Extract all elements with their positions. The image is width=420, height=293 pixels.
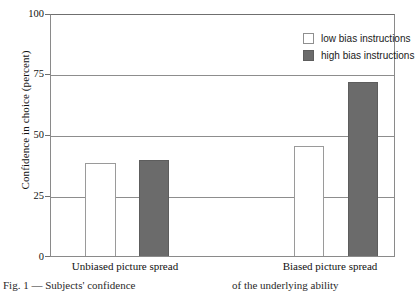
y-tick-label-75: 75 <box>10 68 44 79</box>
bar-unbiased-low-bias <box>85 163 116 256</box>
legend-swatch-icon-low-bias <box>303 33 314 44</box>
x-group-label-unbiased: Unbiased picture spread <box>35 260 215 272</box>
bar-chart-figure: Confidence in choice (percent) 100 75 50… <box>0 0 420 293</box>
plot-area: low bias instructions high bias instruct… <box>50 14 395 257</box>
bar-unbiased-high-bias <box>139 160 169 256</box>
gridline-50 <box>51 136 394 137</box>
legend-item-low-bias: low bias instructions <box>303 31 420 45</box>
legend-label-high-bias: high bias instructions <box>321 50 414 61</box>
caption-right-fragment: of the underlying ability <box>232 279 339 291</box>
legend-label-low-bias: low bias instructions <box>321 33 410 44</box>
gridline-75 <box>51 75 394 76</box>
bar-biased-low-bias <box>294 146 324 256</box>
y-tick-label-25: 25 <box>10 190 44 201</box>
legend: low bias instructions high bias instruct… <box>303 31 420 65</box>
caption-left-fragment: Fig. 1 — Subjects' confidence <box>3 279 135 291</box>
y-tick-label-50: 50 <box>10 129 44 140</box>
legend-swatch-icon-high-bias <box>303 50 314 61</box>
legend-item-high-bias: high bias instructions <box>303 48 420 62</box>
y-tick-label-100: 100 <box>10 8 44 19</box>
figure-caption: Fig. 1 — Subjects' confidence of the und… <box>0 279 420 293</box>
y-axis-title: Confidence in choice (percent) <box>19 30 35 210</box>
x-group-label-biased: Biased picture spread <box>245 260 415 272</box>
bar-biased-high-bias <box>348 82 378 256</box>
